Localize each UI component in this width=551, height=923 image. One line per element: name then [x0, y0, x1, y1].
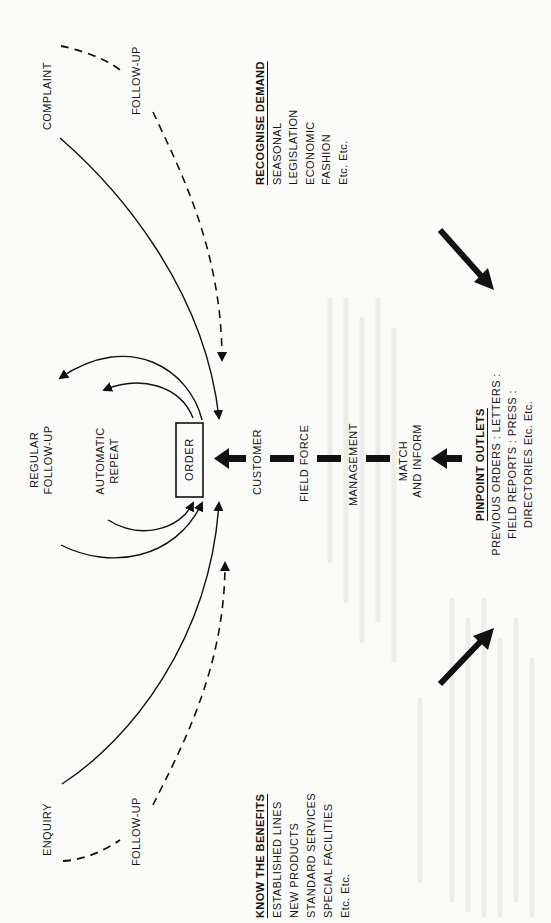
know-the-benefits-panel: KNOW THE BENEFITS ESTABLISHED LINES NEW … [252, 738, 354, 918]
recognise-demand-panel: RECOGNISE DEMAND SEASONAL LEGISLATION EC… [252, 25, 351, 185]
enquiry-label: ENQUIRY [42, 803, 53, 856]
automatic-repeat-line-1: AUTOMATIC [93, 422, 107, 500]
pinpoint-outlets-line-1: PREVIOUS ORDERS : LETTERS : [488, 367, 504, 562]
recognise-demand-item: LEGISLATION [285, 25, 302, 185]
enquiry-follow-up-dashed-link [63, 840, 120, 861]
follow-up-bottom-label: FOLLOW-UP [131, 797, 142, 866]
match-and-inform-label: MATCH AND INFORM [396, 420, 424, 502]
order-to-automatic-repeat-arrow [104, 383, 193, 418]
follow-up-top-to-order-arrow [153, 112, 222, 360]
regular-follow-up-return-arrow [61, 503, 202, 558]
recognise-demand-item: FASHION [318, 25, 335, 185]
know-the-benefits-heading: KNOW THE BENEFITS [252, 738, 269, 918]
regular-follow-up-label: REGULAR FOLLOW-UP [27, 421, 55, 499]
field-force-label: FIELD FORCE [299, 425, 310, 502]
complaint-label: COMPLAINT [42, 62, 53, 130]
chain-dash-management-match [366, 455, 390, 462]
and-inform-line-2: AND INFORM [410, 420, 424, 502]
recognise-demand-item: Etc. Etc. [335, 25, 352, 185]
know-the-benefits-item: STANDARD SERVICES [303, 738, 320, 918]
recognise-demand-heading: RECOGNISE DEMAND [252, 25, 269, 185]
recognise-demand-item: ECONOMIC [302, 25, 319, 185]
know-the-benefits-item: Etc. Etc. [337, 738, 354, 918]
pinpoint-outlets-panel: PINPOINT OUTLETS PREVIOUS ORDERS : LETTE… [472, 367, 536, 562]
regular-follow-up-line-2: FOLLOW-UP [41, 421, 55, 499]
pinpoint-outlets-line-2: FIELD REPORTS : PRESS : [504, 367, 520, 562]
regular-follow-up-line-1: REGULAR [27, 421, 41, 499]
complaint-follow-up-dashed-link [61, 46, 120, 70]
complaint-to-order-arrow [60, 138, 219, 418]
diagram-page: ORDER COMPLAINT FOLLOW-UP ENQUIRY FOLLOW… [0, 0, 551, 923]
know-benefits-diagonal-arrow [440, 628, 494, 684]
know-the-benefits-item: ESTABLISHED LINES [269, 738, 286, 918]
automatic-repeat-return-arrow [108, 503, 193, 531]
pinpoint-outlets-line-3: DIRECTORIES Etc. Etc. [520, 367, 536, 562]
order-node-label: ORDER [183, 438, 195, 481]
automatic-repeat-line-2: REPEAT [107, 422, 121, 500]
pinpoint-outlets-heading: PINPOINT OUTLETS [472, 367, 488, 562]
enquiry-to-order-arrow [62, 503, 219, 784]
recognise-demand-diagonal-arrow [440, 230, 494, 290]
follow-up-top-label: FOLLOW-UP [131, 46, 142, 115]
pinpoint-to-match-thick-arrow [431, 448, 462, 469]
customer-to-order-thick-arrow [214, 448, 246, 469]
chain-dash-fieldforce-management [317, 455, 341, 462]
match-line-1: MATCH [396, 420, 410, 502]
follow-up-bottom-to-order-arrow [153, 563, 225, 805]
know-the-benefits-item: SPECIAL FACILITIES [320, 738, 337, 918]
order-to-regular-follow-up-arrow [60, 356, 202, 420]
know-the-benefits-item: NEW PRODUCTS [286, 738, 303, 918]
customer-label: CUSTOMER [252, 429, 263, 495]
management-label: MANAGEMENT [348, 423, 359, 506]
chain-dash-customer-fieldforce [270, 455, 294, 462]
automatic-repeat-label: AUTOMATIC REPEAT [93, 422, 121, 500]
recognise-demand-item: SEASONAL [269, 25, 286, 185]
